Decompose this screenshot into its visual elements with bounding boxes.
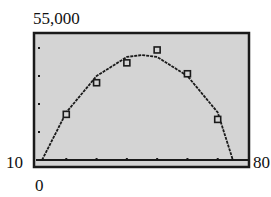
- x-tick: [217, 158, 219, 160]
- y-tick: [38, 131, 40, 133]
- screen-frame: [34, 33, 249, 167]
- x-tick: [156, 158, 158, 160]
- x-tick: [186, 158, 188, 160]
- calculator-graph-screen: [0, 0, 271, 197]
- x-tick: [96, 158, 98, 160]
- x-tick: [126, 158, 128, 160]
- data-point: [215, 116, 221, 122]
- y-tick: [38, 47, 40, 49]
- x-tick: [65, 158, 67, 160]
- y-tick: [38, 75, 40, 77]
- data-point: [184, 71, 190, 77]
- y-tick: [38, 103, 40, 105]
- data-point: [124, 60, 130, 66]
- data-point: [63, 111, 69, 117]
- data-point: [94, 80, 100, 86]
- data-point: [154, 47, 160, 53]
